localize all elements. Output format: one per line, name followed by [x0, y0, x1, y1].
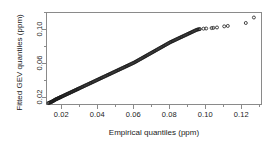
- x-tick-mark-minor: [79, 105, 80, 107]
- y-tick-mark-minor: [44, 46, 46, 47]
- x-tick-label: 0.12: [234, 110, 249, 119]
- x-tick-mark-minor: [259, 105, 260, 107]
- y-tick-label: 0.02: [35, 90, 44, 105]
- x-tick-mark: [133, 105, 134, 109]
- x-tick-mark: [61, 105, 62, 109]
- x-tick-mark-minor: [223, 105, 224, 107]
- x-tick-mark: [169, 105, 170, 109]
- x-tick-mark-minor: [151, 105, 152, 107]
- data-point: [244, 21, 247, 24]
- x-tick-label: 0.10: [198, 110, 213, 119]
- y-tick-mark-minor: [44, 80, 46, 81]
- x-tick-mark: [205, 105, 206, 109]
- y-axis-title: Fitted GEV quantiles (ppm): [15, 3, 24, 123]
- data-point: [223, 25, 226, 28]
- x-tick-mark: [97, 105, 98, 109]
- y-tick-label: 0.06: [35, 56, 44, 71]
- x-tick-label: 0.08: [162, 110, 177, 119]
- data-point: [216, 26, 219, 29]
- y-tick-mark-minor: [44, 12, 46, 13]
- x-tick-label: 0.04: [90, 110, 105, 119]
- data-point: [252, 16, 255, 19]
- x-tick-mark-minor: [187, 105, 188, 107]
- x-tick-label: 0.06: [126, 110, 141, 119]
- data-points-group: [47, 16, 256, 105]
- x-tick-mark-minor: [115, 105, 116, 107]
- x-tick-mark: [241, 105, 242, 109]
- qq-plot-figure: 0.020.040.060.080.100.12 0.020.060.10 Em…: [0, 0, 271, 148]
- x-axis-title: Empirical quantiles (ppm): [46, 128, 262, 137]
- data-point: [226, 24, 229, 27]
- y-tick-label: 0.10: [35, 22, 44, 37]
- x-tick-label: 0.02: [54, 110, 69, 119]
